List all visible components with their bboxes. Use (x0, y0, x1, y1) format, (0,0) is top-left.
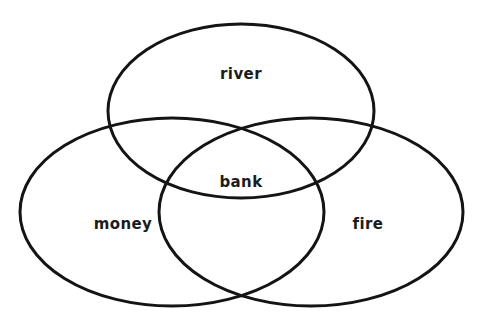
ellipse-money[interactable] (20, 118, 324, 306)
venn-diagram-svg: river bank money fire (0, 0, 482, 330)
label-fire: fire (353, 215, 384, 233)
venn-diagram-canvas: river bank money fire (0, 0, 482, 330)
label-river: river (220, 65, 262, 83)
label-bank: bank (219, 173, 263, 191)
label-money: money (94, 215, 153, 233)
ellipse-fire[interactable] (159, 118, 463, 306)
